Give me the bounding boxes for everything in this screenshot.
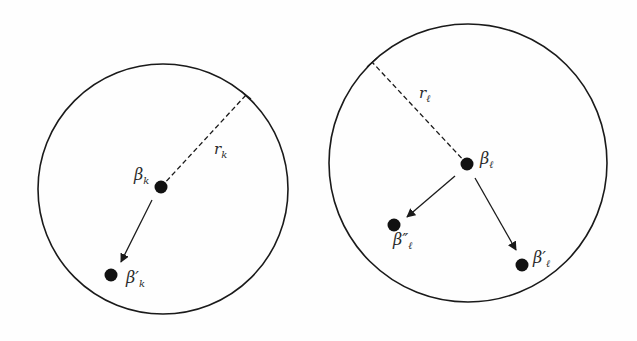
right-move-arrow-2	[407, 176, 455, 217]
right-radius-label: rℓ	[419, 84, 430, 104]
left-moved-label: β′k	[125, 268, 145, 289]
right-radius-tick	[367, 58, 377, 67]
right-radius-line	[372, 62, 467, 164]
diagram-canvas: βk rk β′k βℓ rℓ β′ℓ β″ℓ	[0, 0, 637, 341]
right-center-label: βℓ	[479, 149, 493, 170]
left-region: βk rk β′k	[38, 64, 288, 314]
right-region: βℓ rℓ β′ℓ β″ℓ	[329, 24, 607, 302]
right-move-arrow-1	[475, 178, 516, 250]
left-move-arrow	[121, 200, 152, 262]
left-center-label: βk	[133, 165, 149, 186]
right-moved-dot-1	[516, 259, 529, 272]
left-radius-tick	[241, 91, 251, 99]
right-moved1-label: β′ℓ	[532, 248, 550, 269]
right-moved2-label: β″ℓ	[392, 230, 412, 251]
left-radius-label: rk	[214, 140, 227, 160]
left-center-dot	[155, 181, 168, 194]
left-radius-line	[161, 95, 246, 187]
right-center-dot	[461, 158, 474, 171]
left-moved-dot	[105, 269, 118, 282]
